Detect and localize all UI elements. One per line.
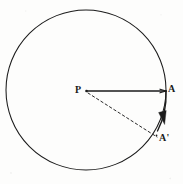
label-centre-p: P	[75, 85, 81, 95]
geometry-figure: P A A'	[0, 0, 183, 184]
label-point-a: A	[168, 84, 175, 94]
point-a-prime-dot	[156, 135, 158, 137]
label-point-a-prime: A'	[159, 133, 169, 143]
arc-rotation-arrowhead	[159, 111, 167, 125]
figure-canvas	[0, 0, 183, 184]
radius-pa-prime-dashed	[88, 93, 157, 137]
centre-point-dot	[85, 90, 88, 93]
